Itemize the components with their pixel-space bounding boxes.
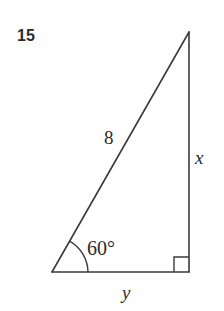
hypotenuse-line (52, 32, 189, 272)
angle-arc (70, 241, 88, 272)
vertical-leg-label: x (195, 148, 203, 167)
angle-measure-label: 60° (87, 238, 115, 258)
triangle-diagram (0, 0, 224, 311)
base-label: y (122, 283, 130, 302)
hypotenuse-label: 8 (104, 128, 114, 147)
geometry-figure: 15 8 x y 60° (0, 0, 224, 311)
problem-number: 15 (17, 28, 35, 44)
right-angle-icon (174, 257, 189, 272)
